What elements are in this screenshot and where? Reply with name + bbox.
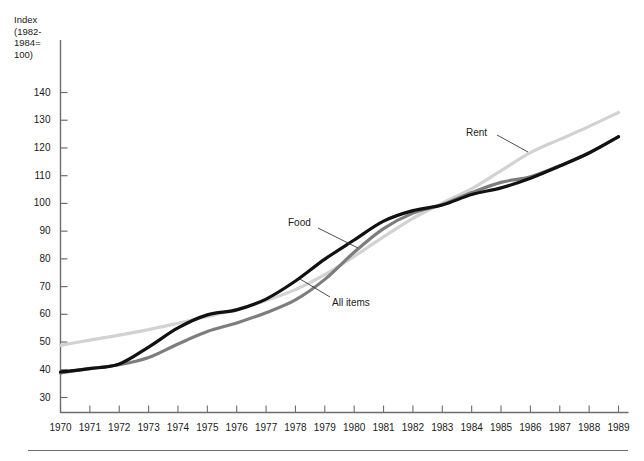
y-tick-label: 50 — [17, 337, 51, 347]
cpi-index-line-chart: Index (1982- 1984= 100) 3040506070809010… — [0, 0, 644, 461]
annotation-leader-food — [318, 228, 358, 248]
annotation-leader-rent — [497, 135, 528, 152]
y-tick-label: 130 — [17, 115, 51, 125]
y-tick-label: 90 — [17, 226, 51, 236]
y-tick-label: 120 — [17, 143, 51, 153]
y-tick-label: 100 — [17, 198, 51, 208]
y-tick-label: 140 — [17, 88, 51, 98]
series-label-rent: Rent — [466, 128, 487, 138]
plot-area — [0, 0, 644, 461]
y-tick-label: 60 — [17, 309, 51, 319]
series-line-food — [61, 137, 619, 372]
x-tick-label: 1989 — [602, 423, 636, 433]
series-label-food: Food — [288, 218, 311, 228]
y-tick-label: 110 — [17, 171, 51, 181]
y-tick-label: 80 — [17, 254, 51, 264]
y-tick-label: 40 — [17, 365, 51, 375]
y-tick-label: 30 — [17, 393, 51, 403]
series-line-rent — [61, 112, 619, 345]
footer-rule — [28, 450, 628, 451]
y-tick-label: 70 — [17, 282, 51, 292]
series-line-all-items — [61, 137, 619, 373]
series-label-all-items: All items — [332, 298, 370, 308]
